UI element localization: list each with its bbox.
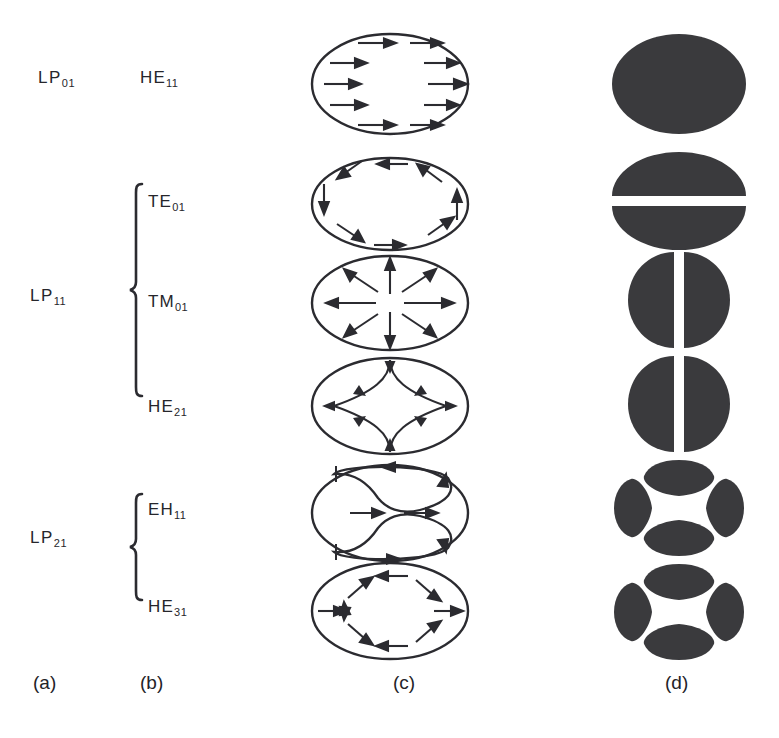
mode-label-he21: HE21	[148, 397, 187, 418]
fiber-mode-figure: LP01 LP11 LP21 HE11 TE01 TM01 HE21 EH11 …	[0, 0, 779, 738]
lp-base: LP	[38, 68, 62, 87]
field-pattern-eh11	[300, 458, 480, 568]
column-caption-d: (d)	[665, 672, 688, 694]
mode-label-he31: HE31	[148, 597, 187, 618]
mode-base: HE	[148, 597, 174, 616]
field-pattern-he31	[300, 556, 480, 666]
intensity-pattern-tm01	[604, 248, 754, 352]
mode-label-eh11: EH11	[148, 500, 186, 521]
mode-subscript: 11	[174, 509, 186, 521]
field-pattern-he11	[300, 28, 480, 140]
mode-subscript: 01	[175, 301, 188, 313]
mode-label-he11: HE11	[140, 68, 178, 89]
intensity-pattern-he31	[604, 556, 754, 668]
lp-group-label-lp01: LP01	[38, 68, 75, 89]
mode-base: TE	[148, 192, 172, 211]
lp-subscript: 11	[54, 295, 66, 307]
mode-label-tm01: TM01	[148, 292, 188, 313]
brace-lp11	[128, 182, 146, 398]
mode-subscript: 01	[172, 201, 185, 213]
mode-subscript: 31	[174, 606, 187, 618]
field-pattern-te01	[300, 152, 480, 256]
intensity-pattern-te01	[604, 148, 754, 254]
field-pattern-he21	[300, 352, 480, 460]
lp-subscript: 01	[62, 77, 75, 89]
mode-base: EH	[148, 500, 174, 519]
mode-subscript: 21	[174, 406, 187, 418]
field-pattern-tm01	[300, 250, 480, 356]
mode-subscript: 11	[166, 77, 178, 89]
mode-base: TM	[148, 292, 175, 311]
mode-label-te01: TE01	[148, 192, 185, 213]
lp-group-label-lp11: LP11	[30, 286, 66, 307]
column-caption-c: (c)	[393, 672, 415, 694]
column-caption-a: (a)	[33, 672, 56, 694]
intensity-pattern-he11	[604, 28, 754, 140]
mode-base: HE	[140, 68, 166, 87]
intensity-pattern-he21	[604, 352, 754, 456]
brace-lp21	[128, 492, 146, 602]
lp-subscript: 21	[54, 537, 67, 549]
lp-group-label-lp21: LP21	[30, 528, 67, 549]
lp-base: LP	[30, 528, 54, 547]
column-caption-b: (b)	[140, 672, 163, 694]
lp-base: LP	[30, 286, 54, 305]
intensity-pattern-eh11	[604, 452, 754, 564]
mode-base: HE	[148, 397, 174, 416]
